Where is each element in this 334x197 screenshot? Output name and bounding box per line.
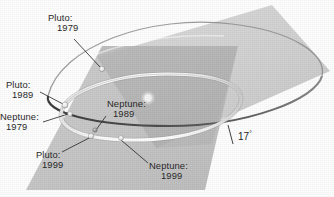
label-pluto-1979-body: Pluto: — [48, 12, 73, 23]
inclination-tick — [228, 125, 233, 144]
label-pluto-1979-year: 1979 — [48, 23, 78, 33]
label-pluto-1989: Pluto: 1989 — [6, 80, 33, 101]
degree-symbol: ° — [249, 130, 252, 137]
label-pluto-1999-year: 1999 — [36, 160, 63, 170]
label-neptune-1989-body: Neptune: — [107, 98, 146, 109]
label-neptune-1979-year: 1979 — [0, 122, 39, 132]
marker-pluto-1989 — [62, 102, 68, 108]
label-neptune-1999: Neptune: 1999 — [149, 161, 188, 182]
label-neptune-1979: Neptune: 1979 — [0, 112, 39, 133]
label-neptune-1989-year: 1989 — [107, 109, 146, 119]
label-neptune-1979-body: Neptune: — [0, 111, 39, 122]
marker-neptune-1999 — [119, 136, 124, 141]
figure-canvas: Pluto: 1979 Pluto: 1989 Neptune: 1979 Ne… — [0, 0, 334, 197]
label-neptune-1989: Neptune: 1989 — [107, 99, 146, 120]
marker-pluto-1979 — [99, 66, 104, 71]
inclination-value: 17 — [238, 131, 249, 142]
label-pluto-1999: Pluto: 1999 — [36, 150, 63, 171]
marker-neptune-1989 — [93, 128, 98, 133]
leader-pluto-1989 — [40, 92, 63, 104]
marker-neptune-1979 — [68, 112, 73, 117]
inclination-angle-label: 17° — [238, 130, 252, 142]
label-pluto-1979: Pluto: 1979 — [48, 13, 78, 34]
label-pluto-1999-body: Pluto: — [36, 149, 61, 160]
label-pluto-1989-body: Pluto: — [6, 79, 31, 90]
label-pluto-1989-year: 1989 — [6, 90, 33, 100]
label-neptune-1999-year: 1999 — [149, 171, 188, 181]
marker-pluto-1999 — [88, 133, 93, 138]
label-neptune-1999-body: Neptune: — [149, 160, 188, 171]
